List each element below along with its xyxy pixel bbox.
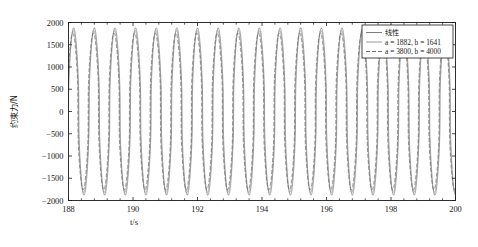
y-tick-label: −2000	[42, 197, 63, 206]
y-tick-label: −1500	[42, 174, 63, 183]
x-tick-label: 200	[449, 205, 462, 214]
svg-text:约束力/N: 约束力/N	[9, 95, 19, 128]
y-tick-label: 1500	[47, 41, 64, 50]
chart-legend: 线性a = 1882, b = 1641a = 3800, b = 4000	[362, 25, 453, 58]
plot-canvas: −2000−1500−1000−500050010001500200018819…	[0, 0, 478, 247]
x-tick-label: 194	[256, 205, 269, 214]
legend-label-2: a = 3800, b = 4000	[385, 47, 441, 56]
y-axis-title: 约束力/N	[9, 95, 19, 128]
x-tick-label: 198	[385, 205, 398, 214]
y-tick-label: 0	[59, 108, 63, 117]
x-tick-label: 192	[191, 205, 204, 214]
x-axis-title: t/s	[130, 217, 139, 227]
x-tick-label: 190	[127, 205, 140, 214]
y-tick-label: 500	[51, 85, 64, 94]
legend-label-0: 线性	[385, 28, 399, 37]
y-tick-label: −1000	[42, 152, 63, 161]
x-tick-label: 196	[320, 205, 333, 214]
y-tick-label: 1000	[47, 63, 64, 72]
legend-label-1: a = 1882, b = 1641	[385, 38, 441, 47]
y-tick-label: −500	[46, 130, 63, 139]
x-tick-label: 188	[62, 205, 75, 214]
chart-figure: −2000−1500−1000−500050010001500200018819…	[0, 0, 478, 247]
y-tick-label: 2000	[47, 19, 64, 28]
